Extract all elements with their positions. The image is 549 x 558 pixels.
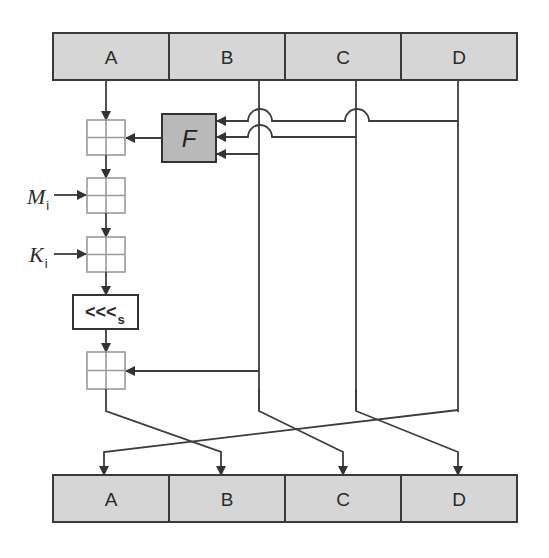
bottom-register: A B C D <box>53 475 517 522</box>
top-label-c: C <box>336 47 350 68</box>
adder-b <box>87 352 125 389</box>
md5-step-diagram: A B C D F Mi <box>0 0 549 558</box>
wire-adder4-to-out-b <box>106 389 221 475</box>
wire-d-to-f <box>217 109 458 121</box>
wire-d-to-out-a <box>104 410 458 475</box>
constant-label: Ki <box>28 242 48 271</box>
top-register: A B C D <box>53 33 517 80</box>
adder-f-output <box>87 120 125 155</box>
adder-message <box>87 178 125 213</box>
top-label-a: A <box>105 47 118 68</box>
message-label: Mi <box>26 184 49 213</box>
function-f-label: F <box>182 125 198 152</box>
top-label-b: B <box>221 47 234 68</box>
bottom-label-a: A <box>105 489 118 510</box>
bottom-label-d: D <box>452 489 466 510</box>
wire-c-to-out-d <box>356 389 458 475</box>
top-label-d: D <box>452 47 466 68</box>
rotate-left-box: <<<s <box>73 295 138 329</box>
message-input: Mi <box>26 184 86 213</box>
adder-constant <box>87 237 125 272</box>
wire-c-to-f <box>217 125 356 137</box>
function-f: F <box>162 114 216 162</box>
bottom-label-b: B <box>221 489 234 510</box>
constant-input: Ki <box>28 242 86 271</box>
bottom-label-c: C <box>336 489 350 510</box>
